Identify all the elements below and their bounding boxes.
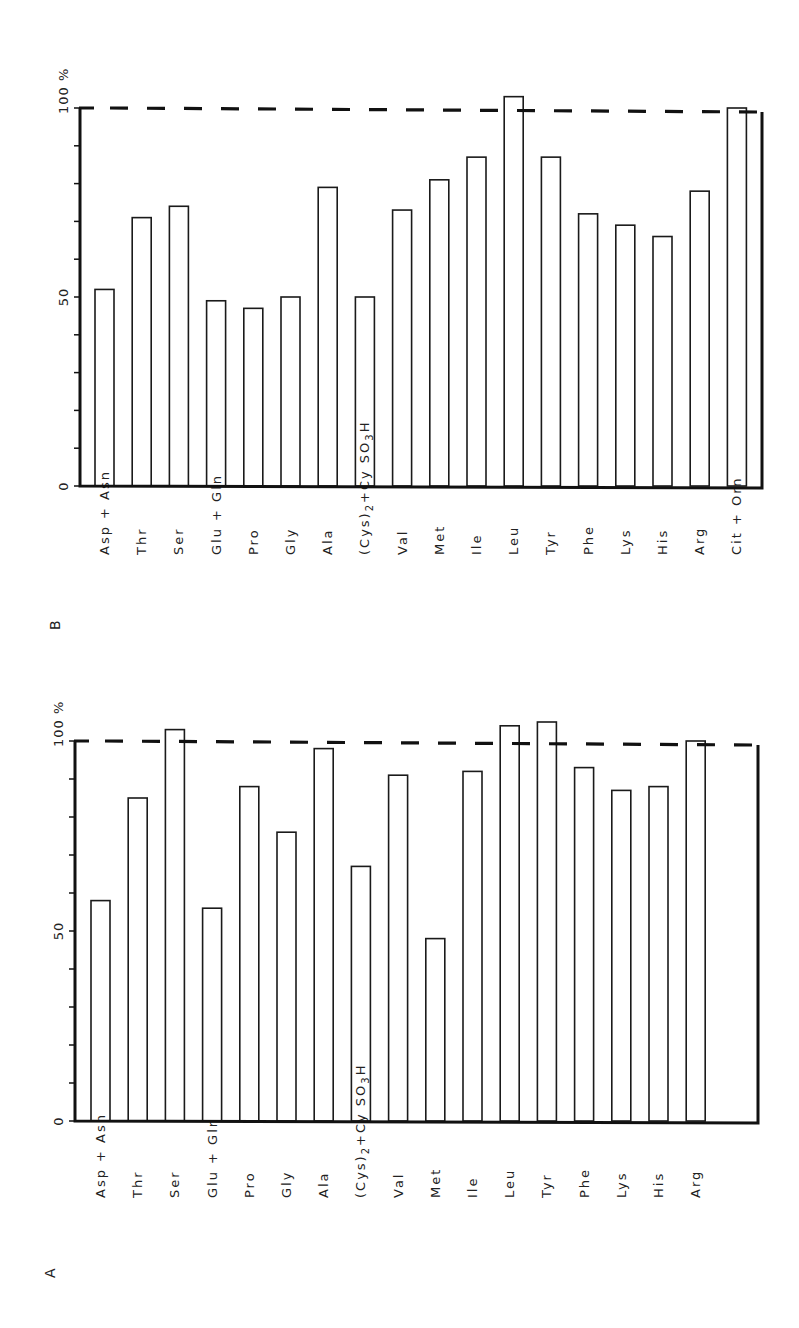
category-label: Ile: [469, 534, 484, 555]
bar-ala: [314, 749, 333, 1121]
bar-asp-asn: [95, 289, 114, 486]
category-label: (Cys)2+Cy SO3H: [353, 1064, 371, 1199]
bar-ala: [318, 187, 337, 486]
category-label: Thr: [130, 1170, 145, 1199]
category-label: His: [655, 529, 670, 555]
category-label: Pro: [246, 528, 261, 555]
bar-charts-svg: Asp + AsnThrSerGlu + GlnProGlyAla(Cys)2+…: [0, 0, 799, 1328]
bar-ile: [463, 771, 482, 1121]
bar-ser: [165, 730, 184, 1121]
bar-thr: [132, 218, 151, 486]
bar-lys: [612, 790, 631, 1121]
y-tick-label: 50: [51, 922, 66, 941]
bar-leu: [504, 97, 523, 486]
bar-gly: [277, 832, 296, 1121]
category-label: Leu: [502, 1169, 517, 1198]
bar-val: [393, 210, 412, 486]
category-label: Ser: [171, 527, 186, 555]
category-label: Ser: [167, 1170, 182, 1198]
category-label: Glu + Gln: [205, 1117, 220, 1198]
chart-panel-a: Asp + AsnThrSerGlu + GlnProGlyAla(Cys)2+…: [42, 701, 758, 1278]
category-label: Arg: [688, 1170, 703, 1198]
category-label: Ala: [320, 529, 335, 555]
y-tick-label: 50: [56, 288, 71, 307]
figure-canvas: Asp + AsnThrSerGlu + GlnProGlyAla(Cys)2+…: [0, 0, 799, 1328]
category-label: Asp + Asn: [93, 1113, 108, 1198]
category-label: Gly: [283, 528, 298, 555]
bar-lys: [616, 225, 635, 486]
bar-tyr: [541, 157, 560, 486]
bar-glu-gln: [203, 908, 222, 1121]
bar-leu: [500, 726, 519, 1121]
category-label: Met: [432, 525, 447, 555]
category-label: Lys: [618, 528, 633, 555]
category-label: Pro: [242, 1171, 257, 1198]
bar-his: [653, 237, 672, 486]
y-tick-label: 100 %: [51, 701, 66, 747]
category-label: Lys: [614, 1171, 629, 1198]
bar-ile: [467, 157, 486, 486]
y-tick-label: 100 %: [56, 68, 71, 114]
category-label: Asp + Asn: [97, 470, 112, 555]
category-label: Met: [428, 1168, 443, 1198]
bar-gly: [281, 297, 300, 486]
category-label: Ala: [316, 1172, 331, 1198]
y-tick-label: 0: [51, 1116, 66, 1125]
bar-thr: [128, 798, 147, 1121]
category-label: Val: [395, 530, 410, 555]
bar-arg: [690, 191, 709, 486]
bar-glu-gln: [207, 301, 226, 486]
bar-val: [389, 775, 408, 1121]
bar-cit-orn: [727, 108, 746, 486]
category-label: Tyr: [539, 1173, 554, 1199]
category-label: Tyr: [543, 530, 558, 556]
bar-pro: [244, 308, 263, 486]
category-label: Arg: [692, 527, 707, 555]
reference-line-100: [105, 741, 754, 745]
bar-phe: [575, 768, 594, 1121]
category-label: Phe: [577, 1168, 592, 1198]
bar-met: [430, 180, 449, 486]
bar-ser: [169, 206, 188, 486]
bar-arg: [686, 741, 705, 1121]
bar-asp-asn: [91, 901, 110, 1121]
category-label: Phe: [581, 525, 596, 555]
category-label: Ile: [465, 1177, 480, 1198]
bar-his: [649, 787, 668, 1121]
category-label: Gly: [279, 1171, 294, 1198]
category-label: Val: [391, 1173, 406, 1198]
category-label: Leu: [506, 526, 521, 555]
bar-phe: [579, 214, 598, 486]
bar-tyr: [537, 722, 556, 1121]
reference-line-100: [110, 108, 758, 112]
chart-panel-b: Asp + AsnThrSerGlu + GlnProGlyAla(Cys)2+…: [47, 68, 762, 630]
bar-met: [426, 939, 445, 1121]
y-tick-label: 0: [56, 481, 71, 490]
panel-label: A: [42, 1268, 58, 1278]
category-label: His: [651, 1172, 666, 1198]
panel-label: B: [47, 620, 63, 630]
bar-pro: [240, 787, 259, 1121]
category-label: Thr: [134, 527, 149, 556]
